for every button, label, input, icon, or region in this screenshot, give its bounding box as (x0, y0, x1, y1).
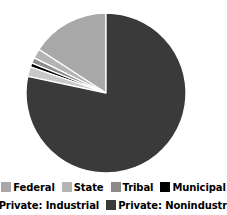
legend-label-private-industrial: Private: Industrial (0, 200, 99, 211)
legend-label-tribal: Tribal (123, 182, 154, 193)
pie-chart-figure: Federal State Tribal Municipal Private: … (0, 0, 227, 215)
legend-swatch-private-nonindustrial (106, 200, 116, 210)
legend-swatch-federal (1, 182, 11, 192)
pie-slice-group (26, 13, 186, 173)
legend-item-municipal[interactable]: Municipal (160, 182, 225, 193)
legend-item-federal[interactable]: Federal (1, 182, 55, 193)
legend-row-1: Federal State Tribal Municipal (0, 178, 227, 196)
legend-swatch-tribal (111, 182, 121, 192)
legend-label-municipal: Municipal (172, 182, 225, 193)
legend-item-state[interactable]: State (62, 182, 104, 193)
legend-item-private-industrial[interactable]: Private: Industrial (0, 200, 99, 211)
legend-swatch-state (62, 182, 72, 192)
legend-label-federal: Federal (13, 182, 55, 193)
legend-row-2: Private: Industrial Private: Nonindustri… (0, 196, 227, 214)
legend-swatch-municipal (160, 182, 170, 192)
chart-legend: Federal State Tribal Municipal Private: … (0, 178, 227, 215)
legend-item-tribal[interactable]: Tribal (111, 182, 154, 193)
legend-label-state: State (74, 182, 104, 193)
legend-item-private-nonindustrial[interactable]: Private: Nonindustrial (106, 200, 227, 211)
pie-plot-area (0, 0, 227, 178)
pie-chart-svg (0, 0, 227, 178)
legend-label-private-nonindustrial: Private: Nonindustrial (118, 200, 227, 211)
